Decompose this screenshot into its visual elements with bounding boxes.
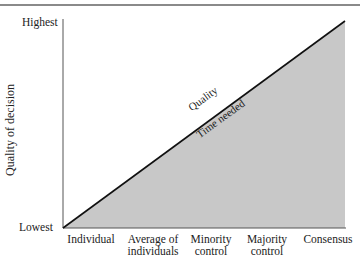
chart-plot	[0, 0, 360, 262]
y-axis-title: Quality of decision	[3, 84, 18, 176]
x-label-average-of-individuals: Average of individuals	[122, 233, 184, 257]
x-label-consensus: Consensus	[298, 233, 358, 245]
y-tick-highest: Highest	[22, 16, 58, 29]
x-label-minority-control: Minority control	[186, 233, 236, 257]
y-tick-lowest: Lowest	[19, 221, 53, 234]
x-label-individual: Individual	[60, 233, 122, 245]
x-label-majority-control: Majority control	[242, 233, 292, 257]
